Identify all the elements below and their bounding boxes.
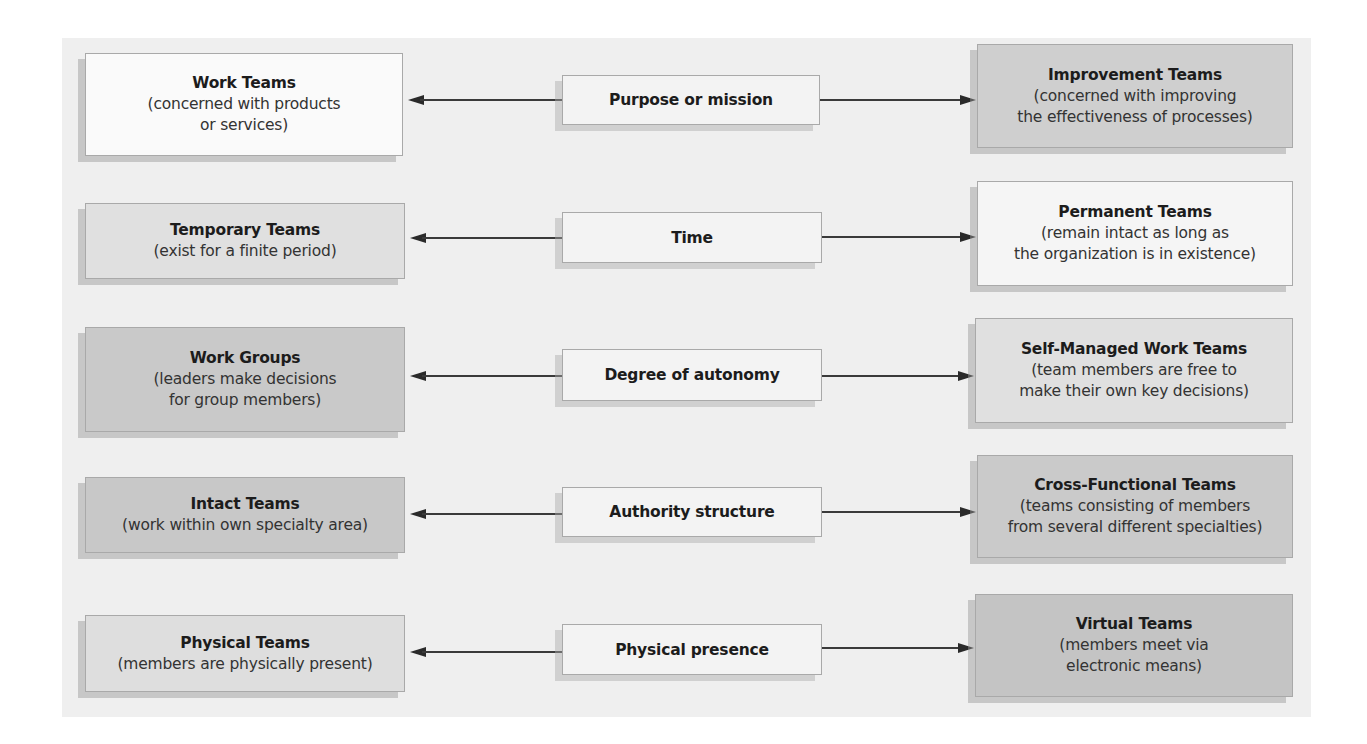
right-box-cross-functional-teams: Cross-Functional Teams (teams consisting… — [977, 455, 1293, 558]
box-title: Temporary Teams — [170, 220, 320, 241]
connector-line — [822, 236, 965, 238]
box-desc-line: (members meet via — [1059, 635, 1208, 656]
arrow-right-icon — [958, 643, 974, 653]
box-desc-line: (work within own specialty area) — [122, 515, 368, 536]
box-desc-line: make their own key decisions) — [1019, 381, 1249, 402]
connector-line — [422, 237, 562, 239]
box-desc-line: (concerned with improving — [1034, 86, 1237, 107]
left-box-physical-teams: Physical Teams (members are physically p… — [85, 615, 405, 692]
connector-line — [422, 375, 562, 377]
connector-line — [822, 647, 963, 649]
dimension-purpose-or-mission: Purpose or mission — [562, 75, 820, 125]
box-desc-line: (team members are free to — [1031, 360, 1237, 381]
box-desc-line: electronic means) — [1066, 656, 1202, 677]
box-title: Improvement Teams — [1048, 65, 1222, 86]
box-desc-line: or services) — [200, 115, 288, 136]
box-title: Virtual Teams — [1076, 614, 1193, 635]
box-desc-line: the organization is in existence) — [1014, 244, 1256, 265]
right-box-improvement-teams: Improvement Teams (concerned with improv… — [977, 44, 1293, 148]
connector-line — [822, 511, 965, 513]
left-box-intact-teams: Intact Teams (work within own specialty … — [85, 477, 405, 553]
connector-line — [822, 375, 963, 377]
box-desc-line: the effectiveness of processes) — [1017, 107, 1252, 128]
connector-line — [820, 99, 965, 101]
box-title: Cross-Functional Teams — [1034, 475, 1236, 496]
dimension-authority-structure: Authority structure — [562, 487, 822, 537]
arrow-right-icon — [958, 371, 974, 381]
box-title: Work Teams — [192, 73, 295, 94]
box-desc-line: (teams consisting of members — [1020, 496, 1250, 517]
connector-line — [422, 513, 562, 515]
box-title: Work Groups — [190, 348, 301, 369]
dimension-physical-presence: Physical presence — [562, 624, 822, 675]
dimension-time: Time — [562, 212, 822, 263]
box-desc-line: for group members) — [169, 390, 321, 411]
arrow-right-icon — [960, 232, 976, 242]
box-desc-line: (exist for a finite period) — [154, 241, 337, 262]
box-title: Intact Teams — [190, 494, 299, 515]
right-box-virtual-teams: Virtual Teams (members meet via electron… — [975, 594, 1293, 697]
right-box-permanent-teams: Permanent Teams (remain intact as long a… — [977, 181, 1293, 286]
arrow-right-icon — [960, 95, 976, 105]
right-box-self-managed-work-teams: Self-Managed Work Teams (team members ar… — [975, 318, 1293, 423]
box-desc-line: (members are physically present) — [117, 654, 372, 675]
box-desc-line: (concerned with products — [148, 94, 341, 115]
left-box-temporary-teams: Temporary Teams (exist for a finite peri… — [85, 203, 405, 279]
box-desc-line: (leaders make decisions — [154, 369, 337, 390]
left-box-work-teams: Work Teams (concerned with products or s… — [85, 53, 403, 156]
box-desc-line: (remain intact as long as — [1041, 223, 1229, 244]
box-title: Permanent Teams — [1058, 202, 1211, 223]
box-title: Physical Teams — [180, 633, 309, 654]
box-title: Self-Managed Work Teams — [1021, 339, 1247, 360]
dimension-degree-of-autonomy: Degree of autonomy — [562, 349, 822, 401]
box-desc-line: from several different specialties) — [1008, 517, 1263, 538]
connector-line — [420, 99, 562, 101]
left-box-work-groups: Work Groups (leaders make decisions for … — [85, 327, 405, 432]
connector-line — [422, 651, 562, 653]
arrow-right-icon — [960, 507, 976, 517]
